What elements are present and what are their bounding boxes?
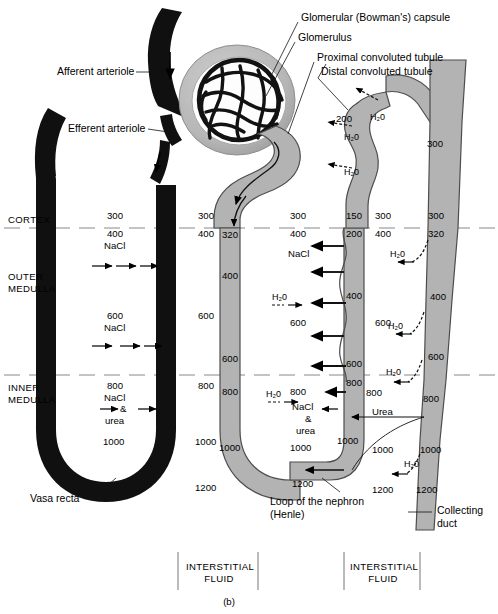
water-label: H₂0	[386, 367, 401, 377]
callout-collecting-duct-line2: duct	[437, 518, 457, 530]
osmolarity-value-descending: 600	[222, 354, 238, 365]
osmolarity-value: 400	[198, 229, 214, 240]
osmolarity-value: 300	[107, 211, 123, 222]
nacl-efflux-arrows-ascending	[312, 246, 346, 392]
osmolarity-value: 300	[290, 211, 306, 222]
osmolarity-value-descending: 320	[222, 230, 238, 241]
callout-loop-of-nephron-sub: (Henle)	[270, 509, 304, 521]
water-label: H₂0	[272, 292, 287, 302]
osmolarity-value-ascending: 600	[346, 359, 362, 370]
osmolarity-value-collecting-duct: 320	[428, 229, 444, 240]
osmolarity-value-collecting-duct: 400	[430, 292, 446, 303]
callout-collecting-duct-line1: Collecting	[437, 505, 483, 517]
osmolarity-value: 800	[366, 388, 382, 399]
water-label: H₂0	[404, 459, 419, 469]
osmolarity-value: 600	[290, 318, 306, 329]
osmolarity-value-distal: 300	[427, 139, 443, 150]
callout-loop-of-nephron: Loop of the nephron	[270, 496, 364, 508]
osmolarity-value: 1200	[195, 483, 216, 494]
nephron-diagram-artwork	[0, 0, 498, 614]
osmolarity-value: 1000	[290, 443, 311, 454]
solute-label-nacl: NaCl	[104, 241, 125, 252]
osmolarity-value: 400	[290, 229, 306, 240]
osmolarity-value: 800	[198, 381, 214, 392]
osmolarity-value-ascending: 200	[346, 229, 362, 240]
zone-label-outer-medulla-line1: OUTER	[8, 272, 43, 283]
callout-afferent-arteriole: Afferent arteriole	[57, 66, 134, 78]
water-label: H₂0	[388, 321, 403, 331]
zone-label-inner-medulla-line1: INNER	[8, 383, 40, 394]
figure-caption: (b)	[214, 597, 244, 608]
water-label: H₂0	[370, 112, 385, 122]
callout-proximal-convoluted-tubule: Proximal convoluted tubule	[317, 52, 443, 64]
zone-label-cortex: CORTEX	[8, 215, 50, 226]
interstitial-fluid-left-line2: FLUID	[186, 574, 252, 585]
callout-efferent-arteriole: Efferent arteriole	[68, 123, 145, 135]
osmolarity-value: 1000	[195, 437, 216, 448]
solute-label-nacl: NaCl	[292, 402, 313, 413]
water-label: H₂0	[344, 132, 359, 142]
callout-vasa-recta: Vasa recta	[30, 493, 79, 505]
callout-glomerular-capsule: Glomerular (Bowman's) capsule	[301, 12, 450, 24]
figure-canvas: Glomerular (Bowman's) capsule Glomerulus…	[0, 0, 498, 614]
osmolarity-value: 600	[198, 311, 214, 322]
osmolarity-value-ascending: 800	[346, 378, 362, 389]
osmolarity-value: 1000	[372, 445, 393, 456]
osmolarity-value-distal: 200	[336, 114, 352, 125]
zone-label-outer-medulla-line2: MEDULLA	[8, 284, 56, 295]
osmolarity-value-collecting-duct: 1200	[416, 485, 437, 496]
osmolarity-value: 800	[107, 381, 123, 392]
solute-label-ampersand: &	[120, 404, 126, 415]
interstitial-fluid-left-line1: INTERSTITIAL	[186, 562, 252, 573]
osmolarity-value: 1200	[372, 485, 393, 496]
interstitial-fluid-right-line1: INTERSTITIAL	[350, 562, 416, 573]
osmolarity-value-collecting-duct: 800	[423, 394, 439, 405]
solute-label-nacl: NaCl	[288, 249, 309, 260]
osmolarity-value: 300	[198, 211, 214, 222]
osmolarity-value: 1000	[103, 437, 124, 448]
zone-label-inner-medulla-line2: MEDULLA	[8, 395, 56, 406]
osmolarity-value-collecting-duct: 300	[428, 211, 444, 222]
solute-label-urea: Urea	[372, 407, 393, 418]
osmolarity-value-collecting-duct: 600	[428, 352, 444, 363]
water-label: H₂0	[266, 389, 281, 399]
callout-distal-convoluted-tubule: Distal convoluted tubule	[321, 66, 433, 78]
osmolarity-value: 400	[375, 229, 391, 240]
nacl-diffusion-arrows-left	[92, 266, 162, 409]
solute-label-nacl: NaCl	[104, 323, 125, 334]
osmolarity-value: 400	[107, 229, 123, 240]
osmolarity-value: 800	[290, 387, 306, 398]
osmolarity-value-descending: 800	[222, 387, 238, 398]
osmolarity-value-collecting-duct: 1000	[420, 445, 441, 456]
osmolarity-value-descending: 1000	[219, 443, 240, 454]
solute-label-urea: urea	[105, 416, 124, 427]
water-label: H₂0	[344, 167, 359, 177]
osmolarity-value-descending: 400	[222, 271, 238, 282]
osmolarity-value-ascending: 150	[346, 211, 362, 222]
water-label: H₂0	[390, 249, 405, 259]
osmolarity-value: 300	[375, 211, 391, 222]
callout-glomerulus: Glomerulus	[298, 32, 352, 44]
solute-label-ampersand: &	[305, 414, 311, 425]
osmolarity-value: 600	[107, 311, 123, 322]
interstitial-fluid-right-line2: FLUID	[350, 574, 416, 585]
osmolarity-value-loop-bottom: 1200	[292, 479, 313, 490]
osmolarity-value-ascending: 1000	[337, 436, 358, 447]
solute-label-urea: urea	[296, 426, 315, 437]
osmolarity-value-ascending: 400	[346, 291, 362, 302]
